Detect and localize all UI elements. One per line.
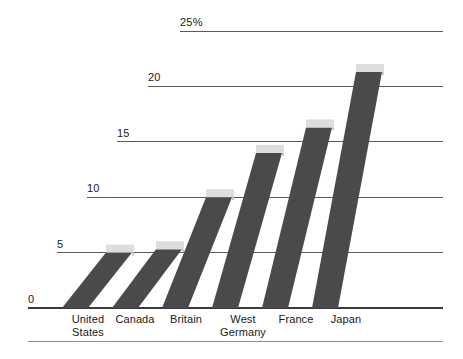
bar-cap-japan	[356, 64, 384, 72]
bar-cap-edge-4	[332, 127, 334, 130]
y-tick-label-0: 0	[28, 294, 34, 305]
bar-cap-edge-2	[232, 197, 234, 200]
bar-cap-west-germany	[256, 145, 284, 153]
chart-plot-area	[0, 0, 463, 359]
y-tick-label-25: 25%	[180, 17, 203, 28]
bar-cap-canada	[156, 241, 184, 249]
bar-cap-edge-0	[132, 253, 134, 256]
bar-cap-edge-5	[382, 72, 384, 75]
chart-container: 0510152025% United StatesCanadaBritainWe…	[0, 0, 463, 359]
bar-cap-edge-3	[282, 153, 284, 156]
bar-japan	[312, 72, 382, 308]
bar-cap-edge-1	[182, 249, 184, 252]
y-tick-label-10: 10	[87, 183, 100, 194]
x-label-japan: Japan	[311, 313, 381, 326]
y-tick-label-5: 5	[57, 239, 63, 250]
bar-cap-france	[306, 119, 334, 127]
bars-group	[62, 64, 384, 308]
bar-cap-britain	[206, 189, 234, 197]
y-tick-label-15: 15	[117, 128, 130, 139]
bar-cap-united-states	[106, 245, 134, 253]
y-tick-label-20: 20	[148, 72, 161, 83]
